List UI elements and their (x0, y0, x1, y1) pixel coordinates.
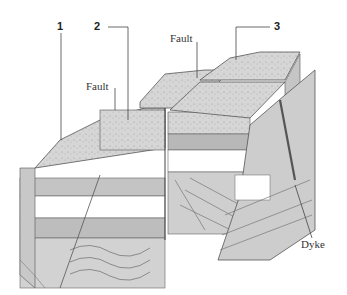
marker-2-label: 2 (94, 20, 100, 32)
marker-3-label: 3 (274, 20, 280, 32)
block-diagram (0, 0, 347, 295)
dyke-label: Dyke (301, 238, 325, 250)
marker-1-label: 1 (57, 20, 63, 32)
fault-top-label: Fault (170, 32, 193, 44)
leader-2 (108, 27, 128, 120)
fault-left-label: Fault (86, 80, 109, 92)
